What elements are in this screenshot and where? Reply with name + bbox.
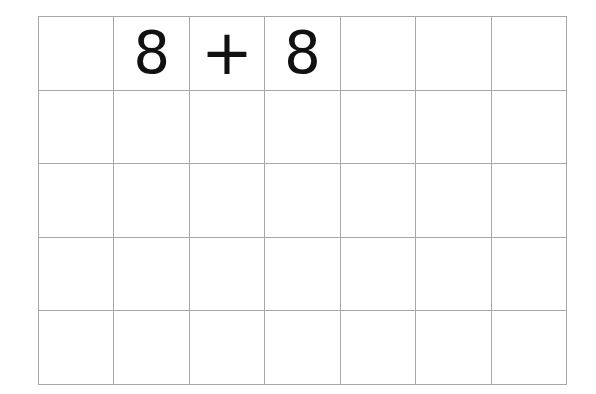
plus-operator-cell[interactable]: +	[190, 17, 265, 91]
right-operand-cell[interactable]: 8	[265, 17, 340, 91]
grid-cell-r3-c6[interactable]	[492, 238, 567, 312]
math-worksheet-grid: 8 + 8	[38, 16, 567, 385]
grid-cell-r3-c0[interactable]	[39, 238, 114, 312]
grid-cell-r3-c4[interactable]	[341, 238, 416, 312]
grid-cell-r3-c5[interactable]	[416, 238, 491, 312]
grid-cell-r1-c5[interactable]	[416, 91, 491, 165]
grid-cell-r4-c2[interactable]	[190, 311, 265, 385]
grid-cell-r1-c0[interactable]	[39, 91, 114, 165]
grid-cell-r4-c6[interactable]	[492, 311, 567, 385]
grid-cell-r3-c3[interactable]	[265, 238, 340, 312]
grid-cell-r4-c3[interactable]	[265, 311, 340, 385]
grid-cell-r4-c1[interactable]	[114, 311, 189, 385]
grid-cell-r1-c6[interactable]	[492, 91, 567, 165]
grid-cell-r4-c5[interactable]	[416, 311, 491, 385]
left-operand-cell[interactable]: 8	[114, 17, 189, 91]
grid-cell-r1-c4[interactable]	[341, 91, 416, 165]
grid-cell-r1-c3[interactable]	[265, 91, 340, 165]
grid-cell-r0-c5[interactable]	[416, 17, 491, 91]
grid-cell-r0-c6[interactable]	[492, 17, 567, 91]
grid-cell-r2-c1[interactable]	[114, 164, 189, 238]
grid-cell-r2-c5[interactable]	[416, 164, 491, 238]
grid-cell-r0-c0[interactable]	[39, 17, 114, 91]
grid-cell-r2-c4[interactable]	[341, 164, 416, 238]
grid-cell-r3-c1[interactable]	[114, 238, 189, 312]
grid-cell-r2-c0[interactable]	[39, 164, 114, 238]
grid-cell-r4-c0[interactable]	[39, 311, 114, 385]
grid-cell-r4-c4[interactable]	[341, 311, 416, 385]
grid-cell-r2-c6[interactable]	[492, 164, 567, 238]
grid-cell-r1-c1[interactable]	[114, 91, 189, 165]
grid-cell-r2-c2[interactable]	[190, 164, 265, 238]
grid-cell-r3-c2[interactable]	[190, 238, 265, 312]
grid-cell-r1-c2[interactable]	[190, 91, 265, 165]
grid-cell-r2-c3[interactable]	[265, 164, 340, 238]
grid-cell-r0-c4[interactable]	[341, 17, 416, 91]
